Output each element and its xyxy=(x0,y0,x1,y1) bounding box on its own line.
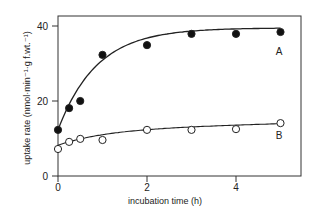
y-axis: 02040 xyxy=(37,21,58,182)
series-label-a: A xyxy=(276,46,283,57)
data-point-b xyxy=(54,145,61,152)
data-point-a xyxy=(99,51,106,58)
uptake-rate-chart: 02040 024 A B incubation time (h) uptake… xyxy=(0,0,316,218)
x-tick-label: 0 xyxy=(55,182,61,193)
plot-frame xyxy=(58,16,301,176)
series-label-b: B xyxy=(276,130,283,141)
data-point-b xyxy=(188,126,195,133)
data-point-a xyxy=(188,30,195,37)
x-tick-label: 2 xyxy=(144,182,150,193)
x-tick-label: 4 xyxy=(233,182,239,193)
data-point-b xyxy=(66,138,73,145)
y-axis-label: uptake rate (nmol·min⁻¹·g f.wt.⁻¹) xyxy=(22,31,32,165)
data-point-a xyxy=(66,105,73,112)
data-point-b xyxy=(277,120,284,127)
y-tick-label: 40 xyxy=(37,21,49,32)
x-axis: 024 xyxy=(55,176,239,193)
data-point-a xyxy=(277,28,284,35)
data-point-a xyxy=(54,126,61,133)
y-tick-label: 20 xyxy=(37,96,49,107)
data-point-a xyxy=(232,30,239,37)
data-point-b xyxy=(77,135,84,142)
fit-curve-a xyxy=(58,28,281,130)
data-point-b xyxy=(143,126,150,133)
fit-curve-b xyxy=(58,124,281,146)
data-point-b xyxy=(99,136,106,143)
fit-curves xyxy=(58,28,281,145)
data-point-a xyxy=(143,42,150,49)
data-points xyxy=(54,28,284,152)
data-point-a xyxy=(77,97,84,104)
x-axis-label: incubation time (h) xyxy=(128,196,202,206)
y-tick-label: 0 xyxy=(42,171,48,182)
data-point-b xyxy=(232,126,239,133)
